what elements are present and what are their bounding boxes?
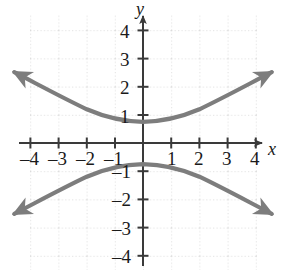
y-axis-label: y: [136, 0, 144, 18]
x-tick-label-1: 1: [167, 149, 177, 168]
y-tick-label--2: –2: [112, 190, 131, 209]
x-tick-label--2: –2: [76, 149, 95, 168]
x-tick-label--4: –4: [20, 149, 39, 168]
x-tick-label-2: 2: [194, 149, 204, 168]
coordinate-plane-svg: [0, 0, 285, 278]
y-tick-label-3: 3: [120, 50, 130, 69]
x-tick-label-4: 4: [250, 149, 260, 168]
y-tick-label--1: –1: [112, 162, 131, 181]
y-tick-label--3: –3: [112, 219, 131, 238]
x-tick-label--3: –3: [48, 149, 67, 168]
graph-figure: x y –4 –3 –2 –1 1 2 3 4 4 3 2 1 –1 –2 –3…: [0, 0, 285, 278]
y-tick-label--4: –4: [112, 247, 131, 266]
y-tick-label-4: 4: [120, 22, 130, 41]
x-axis-label: x: [268, 140, 276, 158]
y-tick-label-1: 1: [120, 107, 130, 126]
x-tick-label-3: 3: [222, 149, 232, 168]
y-tick-label-2: 2: [120, 78, 130, 97]
